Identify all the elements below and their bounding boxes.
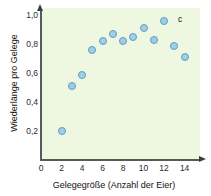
y-axis-tick-label: 0,6 bbox=[2, 69, 38, 78]
data-point bbox=[119, 37, 127, 45]
data-point bbox=[160, 17, 168, 25]
x-axis-line bbox=[40, 159, 200, 161]
x-axis-tick-label: 14 bbox=[175, 164, 195, 173]
data-point bbox=[140, 24, 148, 32]
plot-area bbox=[41, 8, 200, 160]
data-point bbox=[150, 36, 158, 44]
x-axis-tick-label: 6 bbox=[93, 164, 113, 173]
data-point bbox=[78, 71, 86, 79]
data-point bbox=[58, 127, 66, 135]
data-point bbox=[170, 42, 178, 50]
y-axis-line bbox=[40, 10, 42, 160]
data-point bbox=[68, 82, 76, 90]
data-point bbox=[129, 33, 137, 41]
y-axis-tick-label: 0,4 bbox=[2, 98, 38, 107]
data-point bbox=[99, 37, 107, 45]
x-axis-tick-label: 0 bbox=[31, 164, 51, 173]
data-point bbox=[88, 46, 96, 54]
x-axis-tick-label: 12 bbox=[154, 164, 174, 173]
data-point bbox=[109, 30, 117, 38]
x-axis-title: Gelegegröße (Anzahl der Eier) bbox=[24, 180, 204, 190]
x-axis-tick-label: 4 bbox=[72, 164, 92, 173]
x-axis-tick-label: 2 bbox=[52, 164, 72, 173]
panel-label: c bbox=[178, 15, 182, 24]
x-axis-arrow-icon bbox=[199, 156, 206, 162]
x-axis-tick-labels: 02468101214 bbox=[0, 164, 211, 178]
y-axis-tick-label: 0,8 bbox=[2, 40, 38, 49]
x-axis-tick-label: 10 bbox=[134, 164, 154, 173]
x-axis-tick-label: 8 bbox=[113, 164, 133, 173]
scatter-chart: 0,20,40,60,81,0 02468101214 Wiederlänge … bbox=[0, 0, 211, 196]
y-axis-tick-label: 0,2 bbox=[2, 127, 38, 136]
y-axis-tick-label: 1,0 bbox=[2, 11, 38, 20]
data-point bbox=[181, 53, 189, 61]
y-axis-title: Wiederlänge pro Gelege bbox=[9, 13, 19, 153]
